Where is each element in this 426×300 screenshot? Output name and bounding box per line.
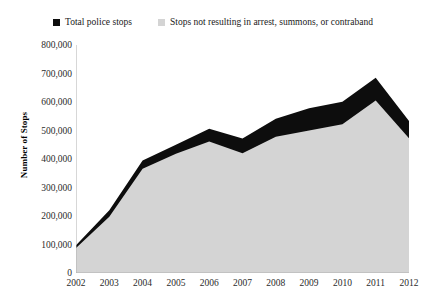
x-axis-tick-label: 2011 bbox=[353, 278, 399, 288]
y-axis-tick-label: 800,000 bbox=[12, 40, 72, 50]
x-axis-tick-label: 2006 bbox=[186, 278, 232, 288]
x-axis-tick-label: 2003 bbox=[86, 278, 132, 288]
y-axis-tick-label: 200,000 bbox=[12, 211, 72, 221]
x-axis-tick-label: 2009 bbox=[286, 278, 332, 288]
x-axis-tick-label: 2010 bbox=[319, 278, 365, 288]
x-axis-tick-label: 2012 bbox=[386, 278, 426, 288]
x-axis-tick-label: 2004 bbox=[120, 278, 166, 288]
y-axis-tick-label: 700,000 bbox=[12, 69, 72, 79]
chart-canvas bbox=[76, 45, 409, 273]
legend-entry-stops-not-resulting[interactable]: Stops not resulting in arrest, summons, … bbox=[158, 17, 373, 27]
y-axis-tick-label: 0 bbox=[12, 268, 72, 278]
x-axis-tick-label: 2002 bbox=[53, 278, 99, 288]
plot-area bbox=[76, 45, 409, 273]
chart-legend: Total police stops Stops not resulting i… bbox=[0, 14, 426, 30]
legend-swatch-icon bbox=[158, 19, 165, 26]
x-axis-tick-label: 2007 bbox=[220, 278, 266, 288]
legend-swatch-icon bbox=[53, 19, 60, 26]
x-axis-tick-label: 2005 bbox=[153, 278, 199, 288]
legend-label: Stops not resulting in arrest, summons, … bbox=[170, 17, 373, 27]
series-layer bbox=[76, 78, 409, 273]
legend-entry-total-police-stops[interactable]: Total police stops bbox=[53, 17, 132, 27]
y-axis-title: Number of Stops bbox=[19, 85, 29, 205]
legend-label: Total police stops bbox=[65, 17, 132, 27]
area-chart: Total police stops Stops not resulting i… bbox=[0, 0, 426, 300]
x-axis-tick-label: 2008 bbox=[253, 278, 299, 288]
y-axis-tick-label: 100,000 bbox=[12, 240, 72, 250]
